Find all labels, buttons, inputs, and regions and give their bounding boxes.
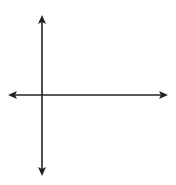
- axes: [8, 15, 168, 176]
- coordinate-plane: [0, 0, 176, 185]
